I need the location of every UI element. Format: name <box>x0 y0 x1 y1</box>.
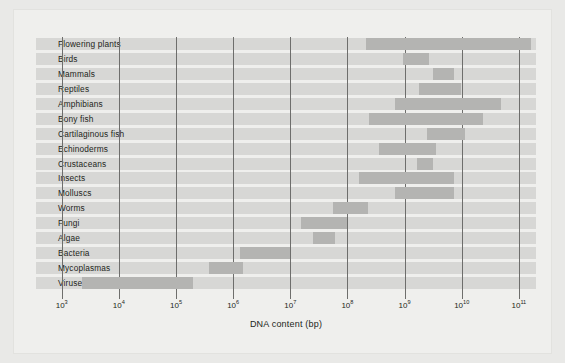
range-bar <box>395 98 501 110</box>
range-bar <box>395 187 454 199</box>
gridline <box>119 37 120 290</box>
category-label: Amphibians <box>58 98 103 110</box>
category-label: Cartilaginous fish <box>58 128 124 140</box>
range-bar <box>369 113 483 125</box>
axis-tick <box>62 290 63 299</box>
range-bar <box>403 53 429 65</box>
gridline <box>347 37 348 290</box>
gridline <box>290 37 291 290</box>
axis-tick <box>119 290 120 299</box>
range-bar <box>313 232 335 244</box>
axis-tick-label: 1011 <box>511 301 526 310</box>
axis-tick <box>233 290 234 299</box>
gridline <box>519 37 520 290</box>
category-label: Flowering plants <box>58 38 121 50</box>
axis-tick-label: 104 <box>113 301 125 310</box>
range-bar <box>240 247 290 259</box>
gridline <box>62 37 63 290</box>
category-label: Echinoderms <box>58 143 108 155</box>
axis-tick-label: 1010 <box>454 301 469 310</box>
axis-tick <box>347 290 348 299</box>
x-axis-title: DNA content (bp) <box>36 319 536 329</box>
range-bar <box>417 158 434 170</box>
range-bar <box>301 217 347 229</box>
axis-tick-label: 108 <box>341 301 353 310</box>
axis-tick-label: 106 <box>227 301 239 310</box>
axis-tick <box>405 290 406 299</box>
gridline <box>176 37 177 290</box>
category-label: Mammals <box>58 68 95 80</box>
axis-tick <box>290 290 291 299</box>
range-bar <box>379 143 436 155</box>
axis-tick <box>462 290 463 299</box>
gridline <box>233 37 234 290</box>
axis-tick-label: 109 <box>399 301 411 310</box>
range-bar <box>209 262 243 274</box>
chart-plot-area: Flowering plantsBirdsMammalsReptilesAmph… <box>36 37 536 290</box>
category-label: Bacteria <box>58 247 90 259</box>
range-bar <box>366 38 531 50</box>
axis-tick-label: 107 <box>284 301 296 310</box>
figure-panel: Flowering plantsBirdsMammalsReptilesAmph… <box>14 10 551 353</box>
axis-tick <box>176 290 177 299</box>
category-label: Bony fish <box>58 113 93 125</box>
axis-tick <box>519 290 520 299</box>
axis-tick-label: 103 <box>56 301 68 310</box>
range-bar <box>333 202 368 214</box>
range-bar <box>82 277 192 289</box>
category-label: Molluscs <box>58 187 91 199</box>
axis-tick-label: 105 <box>170 301 182 310</box>
range-bar <box>419 83 460 95</box>
gridline <box>462 37 463 290</box>
category-label: Mycoplasmas <box>58 262 110 274</box>
gridline <box>405 37 406 290</box>
range-bar <box>427 128 464 140</box>
category-label: Crustaceans <box>58 158 106 170</box>
range-bar <box>359 172 453 184</box>
range-bar <box>433 68 454 80</box>
